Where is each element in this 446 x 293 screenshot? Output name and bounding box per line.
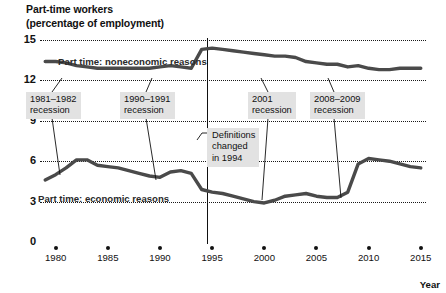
callout-recession-2001-line-1: 2001 [252, 94, 292, 105]
definitions-note-line-1: Definitions [212, 130, 255, 141]
callout-recession-1981-line-1: 1981–1982 [30, 94, 77, 105]
callout-recession-1990-line-2: recession [124, 105, 171, 116]
part-time-workers-chart: Part-time workers (percentage of employm… [0, 0, 446, 293]
definitions-note-line-2: changed [212, 141, 255, 152]
callout-recession-1981: 1981–1982 recession [26, 92, 81, 119]
callout-recession-2001-line-2: recession [252, 105, 292, 116]
callout-recession-1990-line-1: 1990–1991 [124, 94, 171, 105]
callout-recession-2008-line-2: recession [314, 105, 361, 116]
callout-recession-1990: 1990–1991 recession [120, 92, 175, 119]
callout-recession-2001: 2001 recession [248, 92, 296, 119]
x-axis-title: Year [420, 279, 440, 290]
callout-recession-1981-line-2: recession [30, 105, 77, 116]
definitions-note-line-3: in 1994 [212, 153, 255, 164]
callout-recession-2008-line-1: 2008–2009 [314, 94, 361, 105]
definitions-changed-note: Definitions changed in 1994 [207, 128, 259, 167]
callout-recession-2008: 2008–2009 recession [310, 92, 365, 119]
